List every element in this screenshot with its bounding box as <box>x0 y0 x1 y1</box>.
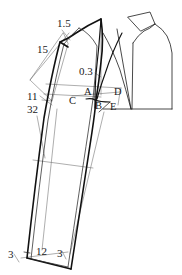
bodice-neckline-curve <box>133 24 155 43</box>
pattern-draft-page: 1.5 15 0.3 11 32 3 12 3 A B C D E <box>0 0 182 275</box>
measure-label-0-3: 0.3 <box>79 66 93 77</box>
construction-inner-seam-guide <box>42 109 57 250</box>
construction-slant-right-guide <box>70 112 104 254</box>
measure-label-32: 32 <box>27 104 38 115</box>
measure-label-11: 11 <box>27 91 38 102</box>
bodice-center-front-line <box>132 43 133 109</box>
point-label-B: B <box>95 100 102 111</box>
undersleeve-hem <box>31 259 68 267</box>
point-label-C: C <box>69 95 76 106</box>
measure-label-15: 15 <box>37 44 48 55</box>
measure-label-1-5: 1.5 <box>57 18 71 29</box>
undersleeve-back-seam <box>68 99 93 267</box>
sleeve-hem-inner-edge <box>24 252 30 253</box>
pattern-draft-canvas <box>0 0 182 275</box>
bodice-side-and-hem-outline <box>155 24 172 109</box>
measure-label-3-left: 3 <box>8 249 14 260</box>
construction-pointer-3-left <box>14 254 19 262</box>
point-label-E: E <box>110 101 116 112</box>
measure-label-12: 12 <box>36 246 47 257</box>
sleeve-cap-back-curve <box>96 19 103 100</box>
measure-label-3-right: 3 <box>57 248 63 259</box>
bodice-shoulder-strap-outline <box>128 12 155 31</box>
point-label-D: D <box>114 86 122 97</box>
point-label-A: A <box>84 86 92 97</box>
sleeve-back-seam-outer <box>71 100 96 269</box>
